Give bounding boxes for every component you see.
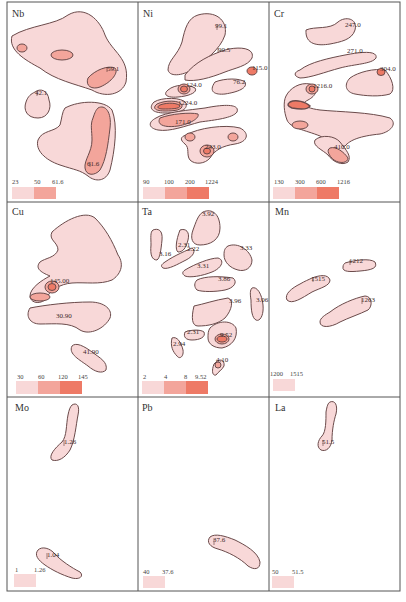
legend-value: 2 bbox=[143, 373, 146, 380]
value-label: 2.22 bbox=[187, 245, 200, 253]
legend: 30 60 120 145 bbox=[16, 373, 88, 394]
anomaly-zone-level2 bbox=[51, 50, 73, 60]
value-label: 247.0 bbox=[345, 21, 361, 29]
legend-swatch-level1 bbox=[16, 381, 38, 394]
element-label: Mn bbox=[275, 206, 289, 217]
legend-swatch-level1 bbox=[143, 187, 165, 199]
legend-value: 8 bbox=[184, 373, 187, 380]
value-label: 99.1 bbox=[215, 22, 228, 30]
value-label: 1263 bbox=[361, 296, 376, 304]
legend-value: 1224 bbox=[205, 178, 219, 185]
value-label: 41.90 bbox=[83, 348, 99, 356]
element-label: Cu bbox=[12, 206, 24, 217]
anomaly-zone-level1 bbox=[30, 215, 121, 302]
legend-swatch-level2 bbox=[38, 381, 60, 394]
legend-value: 9.52 bbox=[195, 373, 206, 380]
value-label: 243.0 bbox=[205, 143, 221, 151]
value-label: 271.0 bbox=[347, 47, 363, 55]
legend-value: 30 bbox=[17, 373, 24, 380]
legend-value: 50 bbox=[272, 568, 279, 575]
legend-value: 1515 bbox=[290, 370, 303, 377]
legend-value: 300 bbox=[295, 178, 305, 185]
panel-ta: Ta 3.92 2.31 3.16 2.22 3.33 3.31 3.86 3.… bbox=[142, 206, 269, 394]
legend-value: 120 bbox=[58, 373, 68, 380]
legend: 23 50 61.6 bbox=[12, 178, 64, 199]
value-label: 76.2 bbox=[233, 78, 246, 86]
value-label: 51.5 bbox=[322, 438, 335, 446]
value-label: 90.5 bbox=[218, 46, 231, 54]
legend-value: 100 bbox=[164, 178, 174, 185]
legend-value: 51.5 bbox=[292, 568, 303, 575]
element-label: Nb bbox=[12, 8, 24, 19]
legend-value: 130 bbox=[274, 178, 284, 185]
panel-cr: Cr 247.0 271.0 304.0 1216.0 410.0 130 30… bbox=[273, 8, 396, 199]
legend-swatch-level1 bbox=[143, 576, 165, 588]
legend: 1 1.26 bbox=[14, 566, 46, 587]
outer-frame bbox=[7, 2, 400, 591]
legend-value: 1216 bbox=[337, 178, 351, 185]
value-label: 171.0 bbox=[175, 118, 191, 126]
legend-swatch-level3 bbox=[186, 381, 208, 394]
element-label: Cr bbox=[274, 8, 285, 19]
anomaly-zone-level2 bbox=[185, 133, 195, 141]
value-label: 9.52 bbox=[220, 331, 233, 339]
panel-la: La 51.5 50 51.5 bbox=[272, 402, 337, 588]
geochemical-anomaly-map-grid: Nb 59.1 42.1 61.6 23 50 61.6 Ni 99.1 90.… bbox=[0, 0, 406, 602]
value-label: 59.1 bbox=[107, 65, 120, 73]
value-label: 2.31 bbox=[187, 328, 200, 336]
value-label: 304.0 bbox=[380, 65, 396, 73]
legend: 2 4 8 9.52 bbox=[142, 373, 208, 394]
legend-swatch-level1 bbox=[273, 187, 295, 199]
legend-swatch-level2 bbox=[34, 187, 56, 199]
legend-swatch-level3 bbox=[317, 187, 339, 199]
anomaly-zone-level3 bbox=[288, 101, 310, 109]
legend-swatch-level1 bbox=[142, 381, 164, 394]
legend-value: 40 bbox=[143, 568, 150, 575]
value-label: 1216.0 bbox=[313, 82, 333, 90]
value-label: 37.6 bbox=[213, 536, 226, 544]
value-label: 2.94 bbox=[173, 340, 186, 348]
element-label: Mo bbox=[15, 402, 29, 413]
legend-swatch-level3 bbox=[187, 187, 209, 199]
panel-ni: Ni 99.1 90.5 115.0 76.2 124.0 1224.0 171… bbox=[143, 8, 268, 199]
value-label: 1.26 bbox=[64, 438, 77, 446]
value-label: 30.90 bbox=[56, 312, 72, 320]
element-label: Ni bbox=[143, 8, 153, 19]
value-label: 3.86 bbox=[218, 275, 231, 283]
value-label: 1515 bbox=[311, 275, 326, 283]
value-label: 3.06 bbox=[256, 296, 269, 304]
legend-swatch-level1 bbox=[12, 187, 34, 199]
anomaly-zone-level2 bbox=[30, 293, 50, 301]
anomaly-zone-level3 bbox=[158, 103, 180, 109]
value-label: 3.33 bbox=[240, 244, 253, 252]
panel-mo: Mo 1.26 1.04 1 1.26 bbox=[14, 402, 82, 587]
legend-swatch-level3 bbox=[60, 381, 82, 394]
anomaly-zone-level1 bbox=[51, 404, 79, 460]
legend-swatch-level2 bbox=[165, 187, 187, 199]
anomaly-zone-level1 bbox=[346, 69, 393, 95]
legend-value: 60 bbox=[38, 373, 45, 380]
legend-swatch-level2 bbox=[164, 381, 186, 394]
legend: 90 100 200 1224 bbox=[143, 178, 219, 199]
legend-swatch-level1 bbox=[272, 576, 294, 588]
legend-value: 37.6 bbox=[162, 568, 174, 575]
legend-value: 61.6 bbox=[52, 178, 64, 185]
panel-cu: Cu 145.00 30.90 41.90 30 60 120 145 bbox=[12, 206, 121, 394]
value-label: 1224.0 bbox=[178, 99, 198, 107]
legend-value: 1.26 bbox=[34, 566, 46, 573]
value-label: 145.00 bbox=[50, 277, 70, 285]
legend: 40 37.6 bbox=[143, 568, 174, 588]
element-label: Ta bbox=[142, 206, 152, 217]
value-label: 115.0 bbox=[252, 64, 268, 72]
value-label: 3.92 bbox=[202, 210, 215, 218]
legend-value: 1200 bbox=[270, 370, 283, 377]
value-label: 42.1 bbox=[35, 89, 48, 97]
legend: 130 300 600 1216 bbox=[273, 178, 351, 199]
value-label: 1.04 bbox=[47, 551, 60, 559]
legend: 50 51.5 bbox=[272, 568, 303, 588]
legend-value: 145 bbox=[78, 373, 88, 380]
value-label: 3.31 bbox=[197, 262, 210, 270]
anomaly-zone-level2 bbox=[292, 121, 308, 129]
value-label: 1212 bbox=[349, 257, 364, 265]
element-label: La bbox=[275, 402, 286, 413]
